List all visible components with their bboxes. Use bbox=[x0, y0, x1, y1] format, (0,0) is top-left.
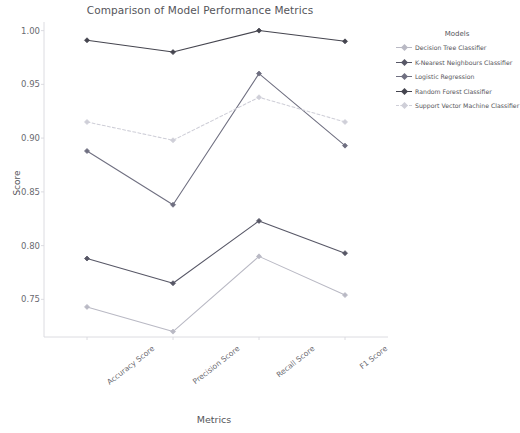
legend-label: Random Forest Classifier bbox=[415, 88, 492, 95]
legend-item[interactable]: K-Nearest Neighbours Classifier bbox=[396, 59, 512, 66]
legend-marker-icon bbox=[396, 102, 412, 109]
legend-label: K-Nearest Neighbours Classifier bbox=[415, 59, 512, 66]
legend-item[interactable]: Logistic Regression bbox=[396, 73, 474, 80]
legend-item[interactable]: Random Forest Classifier bbox=[396, 88, 492, 95]
chart-figure: Comparison of Model Performance Metrics … bbox=[0, 0, 520, 433]
legend-marker-icon bbox=[396, 59, 412, 66]
legend-label: Logistic Regression bbox=[415, 73, 474, 80]
legend-title: Models bbox=[397, 30, 517, 38]
legend-item[interactable]: Support Vector Machine Classifier bbox=[396, 102, 519, 109]
legend-label: Support Vector Machine Classifier bbox=[415, 102, 519, 109]
legend-marker-icon bbox=[396, 88, 412, 95]
legend-marker-icon bbox=[396, 73, 412, 80]
legend-item[interactable]: Decision Tree Classifier bbox=[396, 44, 486, 51]
legend-marker-icon bbox=[396, 44, 412, 51]
legend-label: Decision Tree Classifier bbox=[415, 44, 486, 51]
